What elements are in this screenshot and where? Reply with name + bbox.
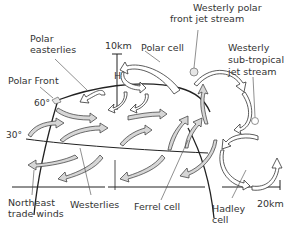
ferrel-cell-right-arrow	[234, 92, 252, 134]
polar-cell-down-arrow	[121, 72, 146, 93]
hadley-cell-top-arrow	[222, 134, 258, 149]
label-westerly-subtropical-2: sub-tropical	[228, 54, 284, 65]
label-hadley-1: Hadley	[212, 203, 245, 214]
label-30-degrees: 30°	[6, 130, 22, 141]
label-hadley-2: cell	[212, 214, 228, 225]
label-northeast-trade-1: Northeast	[8, 197, 55, 208]
leader-ferrel-cell	[161, 140, 188, 200]
label-20km: 20km	[257, 198, 284, 209]
leader-polar-front	[40, 87, 53, 98]
label-northeast-trade-2: trade winds	[8, 208, 64, 219]
polar-easterlies-arrow-2	[108, 92, 127, 113]
trade-wind-arrow-3	[120, 155, 165, 182]
label-westerly-subtropical-1: Westerly	[228, 42, 269, 53]
hadley-cell-left-arrow	[220, 150, 250, 190]
label-westerly-polar-jet-2: front jet stream	[170, 13, 244, 24]
leader-subtropical-jet	[253, 77, 255, 117]
westerlies-arrow-4	[120, 125, 152, 146]
ferrel-cell-up-arrow	[198, 84, 208, 124]
westerlies-arrow-3	[60, 123, 108, 142]
label-polar-easterlies-2: easterlies	[30, 44, 76, 55]
polar-front-marker	[52, 97, 61, 104]
westerlies-arrow-2	[56, 108, 97, 123]
latitude-30-line	[26, 139, 208, 153]
westerlies-arrow-1	[28, 118, 64, 137]
polar-easterlies-arrow-3	[130, 94, 148, 113]
polar-cell-loop-arrow	[120, 62, 180, 94]
label-polar-cell: Polar cell	[141, 42, 184, 53]
leader-northeast-trade	[32, 170, 34, 195]
trade-wind-arrow-1	[28, 155, 78, 170]
label-polar-front: Polar Front	[8, 75, 59, 86]
label-westerly-subtropical-3: jet stream	[228, 66, 277, 77]
leader-polar-jet	[194, 30, 198, 68]
label-10km: 10km	[105, 40, 132, 51]
westerlies-arrow-6	[168, 116, 188, 150]
subtropical-jet-stream-marker	[252, 118, 259, 125]
polar-jet-stream-marker	[190, 68, 198, 76]
label-ferrel-cell: Ferrel cell	[134, 201, 180, 212]
label-westerlies: Westerlies	[70, 199, 119, 210]
label-high-pressure: H	[114, 70, 121, 81]
label-westerly-polar-jet-1: Westerly polar	[193, 2, 262, 13]
hadley-cell-bottom-arrow	[252, 158, 282, 190]
label-60-degrees: 60°	[34, 98, 50, 109]
label-polar-easterlies-1: Polar	[30, 33, 54, 44]
leader-polar-easterlies	[55, 59, 87, 90]
